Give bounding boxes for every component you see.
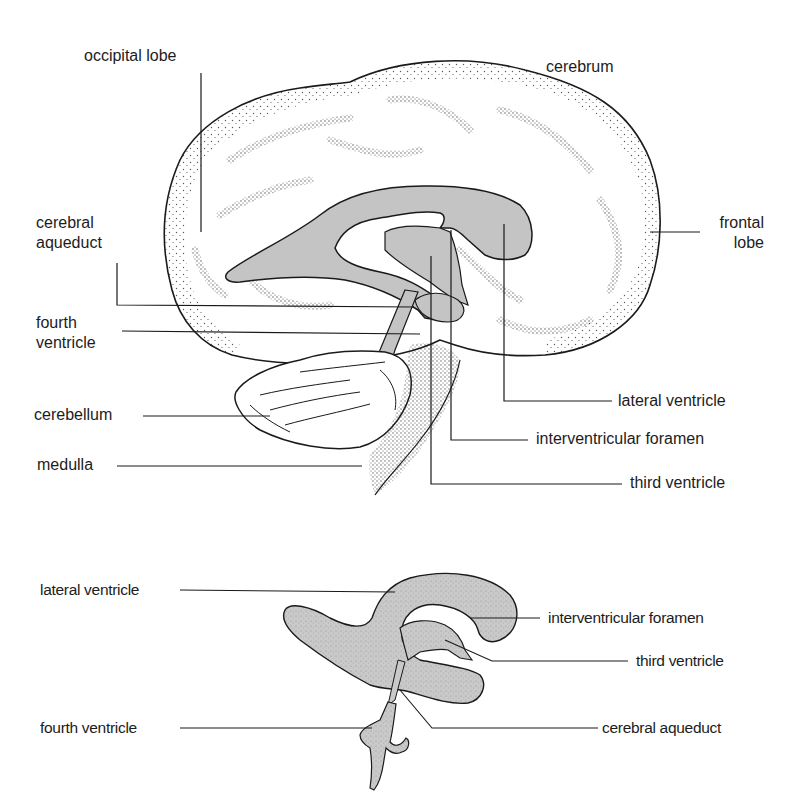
label-lower-fourth-ventricle: fourth ventricle — [40, 718, 137, 738]
label-third-ventricle: third ventricle — [630, 473, 725, 493]
label-interventricular-foramen: interventricular foramen — [536, 429, 704, 449]
cast-third-ventricle — [400, 621, 472, 660]
label-cerebral-aqueduct: cerebral aqueduct — [36, 213, 102, 253]
label-cerebrum: cerebrum — [546, 57, 614, 77]
cast-lateral-ventricle — [283, 573, 516, 703]
label-frontal-lobe: frontal lobe — [700, 213, 764, 253]
label-occipital-lobe: occipital lobe — [84, 46, 177, 66]
label-fourth-ventricle: fourth ventricle — [36, 313, 96, 353]
label-medulla: medulla — [37, 455, 93, 475]
leader-lower-third-ventricle — [445, 640, 628, 661]
label-lower-cerebral-aqueduct: cerebral aqueduct — [602, 718, 721, 738]
cast-fourth-ventricle — [360, 702, 409, 790]
leader-lower-lateral-ventricle — [180, 590, 395, 592]
label-lower-interventricular-foramen: interventricular foramen — [548, 608, 704, 628]
label-lower-third-ventricle: third ventricle — [636, 651, 724, 671]
ventricle-cast — [283, 573, 516, 790]
label-lateral-ventricle: lateral ventricle — [618, 391, 726, 411]
label-cerebellum: cerebellum — [34, 405, 112, 425]
label-lower-lateral-ventricle: lateral ventricle — [40, 580, 139, 600]
cerebellum-shape — [235, 351, 411, 449]
